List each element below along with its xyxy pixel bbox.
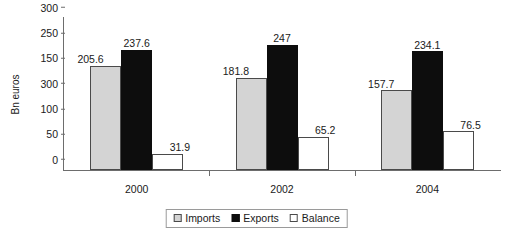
legend-swatch-balance-icon <box>290 214 298 222</box>
y-axis-tick: 150 <box>40 53 64 64</box>
legend-item-imports[interactable]: Imports <box>173 213 220 224</box>
bar-balance-2002[interactable]: 65.2 <box>298 137 329 170</box>
bar-imports-2002[interactable]: 181.8 <box>236 78 267 170</box>
y-axis-tick-label: 300 <box>40 2 58 13</box>
bar-imports-2000[interactable]: 205.6 <box>90 66 121 170</box>
legend-swatch-imports-icon <box>173 214 181 222</box>
bar-group: 205.6237.631.9 <box>90 18 183 170</box>
x-axis-line <box>63 170 501 171</box>
bar-value-label: 65.2 <box>315 125 335 136</box>
bar-value-label: 76.5 <box>460 120 480 131</box>
y-axis-tick-mark <box>61 7 65 8</box>
y-axis-tick: 250 <box>40 28 64 39</box>
x-axis-tick-mark <box>209 171 210 176</box>
bar-exports-2004[interactable]: 234.1 <box>412 51 443 170</box>
plot-area: 050100300150250300 205.6237.631.9181.824… <box>64 18 500 170</box>
bar-value-label: 237.6 <box>124 38 150 49</box>
y-axis-tick-label: 50 <box>46 129 58 140</box>
bar-value-label: 234.1 <box>414 40 440 51</box>
x-axis-label-2004: 2004 <box>416 183 439 195</box>
bar-value-label: 181.8 <box>223 66 249 77</box>
y-axis-tick-mark <box>61 159 65 160</box>
bar-value-label: 247 <box>273 33 291 44</box>
bar-group: 157.7234.176.5 <box>381 18 474 170</box>
y-axis-tick-mark <box>61 83 65 84</box>
bar-value-label: 157.7 <box>368 79 394 90</box>
y-axis-tick: 100 <box>40 104 64 115</box>
y-axis-tick: 50 <box>46 129 64 140</box>
bar-chart: Bn euros 050100300150250300 205.6237.631… <box>0 0 513 242</box>
y-axis-tick-label: 300 <box>40 78 58 89</box>
y-axis-tick-mark <box>61 134 65 135</box>
y-axis-tick: 300 <box>40 2 64 13</box>
y-axis-tick-label: 0 <box>52 154 58 165</box>
bar-value-label: 205.6 <box>77 54 103 65</box>
legend-label: Imports <box>185 213 220 224</box>
y-axis-tick: 0 <box>52 154 64 165</box>
y-axis-tick-label: 250 <box>40 28 58 39</box>
y-axis-tick-mark <box>61 108 65 109</box>
y-axis-tick-label: 150 <box>40 53 58 64</box>
bar-exports-2002[interactable]: 247 <box>267 45 298 170</box>
legend-item-exports[interactable]: Exports <box>231 213 279 224</box>
legend-item-balance[interactable]: Balance <box>290 213 340 224</box>
bar-exports-2000[interactable]: 237.6 <box>121 50 152 170</box>
bar-imports-2004[interactable]: 157.7 <box>381 90 412 170</box>
bar-balance-2000[interactable]: 31.9 <box>152 154 183 170</box>
legend-swatch-exports-icon <box>231 214 239 222</box>
bar-balance-2004[interactable]: 76.5 <box>443 131 474 170</box>
legend-label: Exports <box>243 213 279 224</box>
legend-label: Balance <box>302 213 340 224</box>
bar-value-label: 31.9 <box>170 142 190 153</box>
chart-legend: ImportsExportsBalance <box>165 209 348 228</box>
y-axis-tick-mark <box>61 58 65 59</box>
y-axis-title-label: Bn euros <box>10 74 21 114</box>
bar-group: 181.824765.2 <box>236 18 329 170</box>
y-axis-tick: 300 <box>40 78 64 89</box>
x-axis-label-2002: 2002 <box>270 183 293 195</box>
y-axis-tick-mark <box>61 32 65 33</box>
x-axis-label-2000: 2000 <box>125 183 148 195</box>
x-axis-tick-mark <box>355 171 356 176</box>
y-axis-title: Bn euros <box>4 56 26 132</box>
y-axis-tick-label: 100 <box>40 104 58 115</box>
